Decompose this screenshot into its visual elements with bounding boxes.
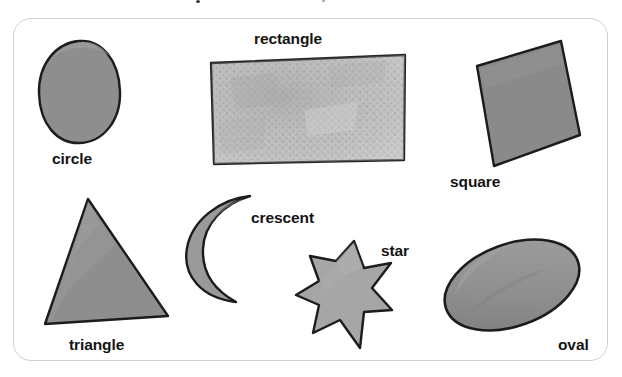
circle-shape [34,36,124,148]
label-oval: oval [558,337,589,353]
label-circle: circle [52,151,92,167]
label-star: star [381,243,409,259]
crescent-shape [180,190,256,306]
label-rectangle: rectangle [254,31,322,47]
triangle-shape [38,194,174,328]
shapes-poster: circle [0,0,622,377]
oval-shape [436,234,588,336]
label-crescent: crescent [251,210,314,226]
scan-speck [322,0,325,2]
label-triangle: triangle [69,337,124,353]
scan-speck [196,0,200,3]
square-shape [456,36,584,172]
rectangle-shape [208,52,408,168]
label-square: square [450,174,500,190]
